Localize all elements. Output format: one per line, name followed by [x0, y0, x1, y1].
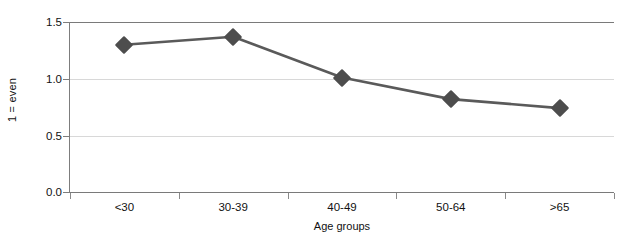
y-tick-mark-0_0	[63, 192, 70, 193]
y-axis-title: 1 = even	[2, 0, 22, 200]
x-tick-label-4: >65	[550, 201, 570, 213]
y-tick-mark-0_5	[63, 136, 70, 137]
gridline-1_5	[70, 22, 614, 23]
x-tick-label-2: 40-49	[327, 201, 356, 213]
x-tick-mark-3	[396, 193, 397, 199]
gridline-0_5	[70, 136, 614, 137]
plot-area	[70, 22, 614, 192]
y-tick-label-1_0: 1.0	[28, 73, 62, 85]
x-tick-mark-0	[70, 193, 71, 199]
y-axis-title-text: 1 = even	[6, 78, 18, 122]
y-tick-mark-1_0	[63, 79, 70, 80]
line-chart: 1 = even 1.5 1.0 0.5 0.0 <30 30-39 40-49…	[0, 0, 623, 240]
x-tick-label-0: <30	[115, 201, 135, 213]
x-tick-mark-4	[505, 193, 506, 199]
y-tick-label-1_5: 1.5	[28, 16, 62, 28]
y-axis-tick-labels: 1.5 1.0 0.5 0.0	[28, 0, 62, 240]
x-tick-label-3: 50-64	[436, 201, 465, 213]
y-tick-mark-1_5	[63, 22, 70, 23]
x-axis-title: Age groups	[70, 220, 614, 232]
gridline-0_0	[70, 192, 614, 193]
y-tick-label-0_0: 0.0	[28, 186, 62, 198]
y-tick-label-0_5: 0.5	[28, 130, 62, 142]
x-tick-mark-2	[288, 193, 289, 199]
x-tick-mark-1	[179, 193, 180, 199]
x-tick-mark-5	[614, 193, 615, 199]
x-tick-label-1: 30-39	[218, 201, 247, 213]
